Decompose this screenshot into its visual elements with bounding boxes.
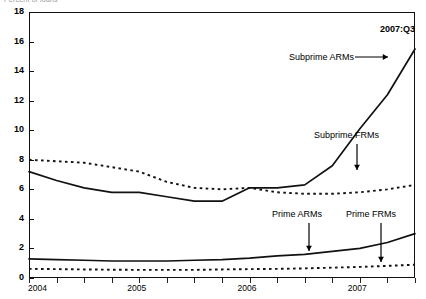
y-axis-tick-mark: [29, 42, 34, 43]
y-axis-tick-label: 4: [2, 214, 24, 223]
plot-frame: [29, 12, 415, 278]
chart-figure: Percent of loans 024681012141618 2004200…: [0, 0, 426, 299]
x-axis-tick-mark: [57, 278, 58, 283]
x-axis-tick-mark: [84, 278, 85, 283]
y-axis-tick-mark: [29, 248, 34, 249]
y-axis-tick-label: 12: [2, 96, 24, 105]
y-axis-tick-label: 16: [2, 37, 24, 46]
x-axis-tick-mark: [222, 278, 223, 283]
x-axis-tick-label: 2007: [348, 284, 367, 293]
annotation-prime-arms: Prime ARMs: [272, 209, 322, 219]
y-axis-tick-label: 18: [2, 7, 24, 16]
y-axis-tick-mark: [29, 101, 34, 102]
y-axis-tick-mark: [29, 71, 34, 72]
x-axis-tick-mark: [387, 278, 388, 283]
x-axis-tick-mark: [194, 278, 195, 283]
y-axis-tick-label: 8: [2, 155, 24, 164]
x-axis-tick-label: 2005: [127, 284, 146, 293]
x-axis-tick-mark: [415, 278, 416, 283]
y-axis-tick-label: 2: [2, 243, 24, 252]
y-axis-tick-mark: [29, 130, 34, 131]
x-axis-tick-mark: [332, 278, 333, 283]
x-axis-tick-label: 2004: [28, 284, 47, 293]
corner-date-label: 2007:Q3: [380, 24, 415, 34]
y-axis-tick-mark: [29, 219, 34, 220]
annotation-subprime-frms: Subprime FRMs: [314, 130, 379, 140]
annotation-prime-frms: Prime FRMs: [346, 209, 396, 219]
y-axis-tick-label: 14: [2, 66, 24, 75]
y-axis-tick-mark: [29, 160, 34, 161]
y-axis-tick-label: 0: [2, 273, 24, 282]
annotation-subprime-arms: Subprime ARMs: [289, 52, 354, 62]
x-axis-tick-mark: [112, 278, 113, 283]
y-axis-tick-mark: [29, 189, 34, 190]
figure-clipped-header: Percent of loans: [4, 0, 58, 4]
x-axis-tick-mark: [277, 278, 278, 283]
y-axis-tick-label: 10: [2, 125, 24, 134]
x-axis-tick-mark: [305, 278, 306, 283]
x-axis-tick-mark: [167, 278, 168, 283]
y-axis-tick-label: 6: [2, 184, 24, 193]
x-axis-tick-label: 2006: [238, 284, 257, 293]
